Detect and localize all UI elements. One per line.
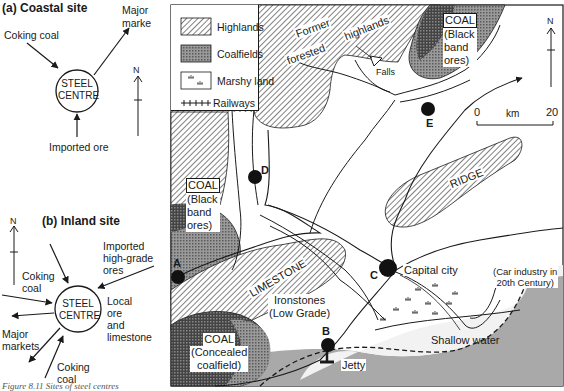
site-e-label: E xyxy=(426,117,433,129)
car-line: (Car industry in xyxy=(492,266,558,277)
legend-railways-label: Railways xyxy=(213,97,255,109)
inland-north-label: N xyxy=(10,215,17,227)
inland-local-ore-label: Local ore and limestone xyxy=(107,295,152,343)
label-coal-northeast: COAL (Black band ores) xyxy=(443,13,477,67)
inland-centre-label: STEEL CENTRE xyxy=(59,298,97,322)
label-line: limestone xyxy=(107,331,152,343)
label-falls: Falls xyxy=(376,66,395,78)
coal-line: ores) xyxy=(443,54,477,67)
legend-marshy-swatch xyxy=(181,72,211,89)
coal-title: COAL xyxy=(186,178,220,193)
label-ironstones: Ironstones (Low Grade) xyxy=(268,294,331,320)
inland-imported-ores-label: Imported high-grade ores xyxy=(103,240,153,276)
label-coal-west: COAL (Black band ores) xyxy=(186,178,220,232)
legend-coalfields-label: Coalfields xyxy=(217,48,263,60)
site-b-marker xyxy=(321,338,335,352)
coal-line: (Black xyxy=(186,193,220,206)
inland-major-markets-label: Major markets xyxy=(2,328,39,352)
site-a-marker xyxy=(171,270,185,284)
legend-railway-swatch xyxy=(181,100,211,106)
coastal-north-arrow-icon xyxy=(134,76,142,136)
label-line: Coking xyxy=(22,270,55,282)
label-line: markets xyxy=(2,340,39,352)
label-line: Local xyxy=(107,295,152,307)
coal-line: (Concealed xyxy=(190,346,248,359)
coal-line: band xyxy=(443,41,477,54)
ironstones-line: (Low Grade) xyxy=(268,307,331,320)
site-d-label: D xyxy=(261,164,269,176)
legend-marshy-label: Marshy land xyxy=(217,75,274,87)
site-c-label: C xyxy=(370,269,378,281)
centre-label-line1: STEEL xyxy=(59,298,97,310)
ironstones-line: Ironstones xyxy=(268,294,331,307)
site-c-marker xyxy=(379,259,397,277)
legend-highlands-label: Highlands xyxy=(217,21,264,33)
site-b-label: B xyxy=(322,325,330,337)
label-line: Major xyxy=(2,328,39,340)
coastal-centre-label: STEEL CENTRE xyxy=(58,78,96,102)
label-line: and xyxy=(107,319,152,331)
scale-end-label: 20 xyxy=(546,106,558,118)
inland-coking-coal-top-label: Coking coal xyxy=(22,270,55,294)
label-line: ore xyxy=(107,307,152,319)
inland-site-title: (b) Inland site xyxy=(42,215,120,227)
label-coal-concealed: COAL (Concealed coalfield) xyxy=(190,333,248,372)
centre-label-line1: STEEL xyxy=(58,78,96,90)
label-jetty: Jetty xyxy=(341,359,366,371)
label-car-industry: (Car industry in 20th Century) xyxy=(492,266,558,288)
label-line: ores xyxy=(103,264,153,276)
inland-coking-coal-left-arrow xyxy=(2,295,52,303)
figure-caption: Figure 8.11 Sites of steel centres xyxy=(2,381,119,391)
coastal-markets-arrow xyxy=(94,28,129,75)
map-north-label: N xyxy=(547,15,554,27)
centre-label-line2: CENTRE xyxy=(58,90,96,102)
label-shallow-water: Shallow water xyxy=(431,334,499,346)
centre-label-line2: CENTRE xyxy=(59,310,97,322)
legend-coalfields-swatch xyxy=(181,45,211,62)
label-line: Imported xyxy=(103,240,153,252)
site-a-label: A xyxy=(173,257,181,269)
label-line: Coking xyxy=(57,361,90,373)
label-line: coal xyxy=(22,282,55,294)
site-e-marker xyxy=(421,102,435,116)
scale-unit-label: km xyxy=(506,108,519,120)
coal-title: COAL xyxy=(203,333,235,346)
scale-start-label: 0 xyxy=(474,106,480,118)
label-capital-city: Capital city xyxy=(403,264,459,276)
site-d-marker xyxy=(248,170,262,184)
coal-line: coalfield) xyxy=(190,359,248,372)
inland-north-arrow-icon xyxy=(10,226,18,285)
coal-line: ores) xyxy=(186,219,220,232)
coastal-north-label: N xyxy=(133,64,140,76)
coal-line: (Black xyxy=(443,28,477,41)
label-line: high-grade xyxy=(103,252,153,264)
coal-title: COAL xyxy=(443,13,477,28)
legend: Highlands Coalfields Marshy land Railway… xyxy=(171,5,259,111)
coastal-coking-coal-arrow xyxy=(27,43,58,68)
inland-markets-west-arrow xyxy=(12,313,54,316)
coal-line: band xyxy=(186,206,220,219)
legend-highlands-swatch xyxy=(181,18,211,35)
car-line: 20th Century) xyxy=(492,277,558,288)
